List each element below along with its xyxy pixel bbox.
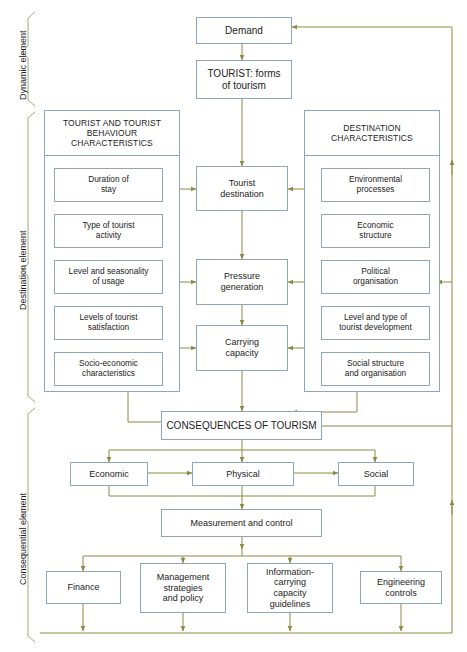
box-economic-structure[interactable]: Economicstructure <box>321 214 430 248</box>
box-measurement-and-control-label: Measurement and control <box>187 518 295 529</box>
panel-right-title-text: DESTINATIONCHARACTERISTICS <box>331 123 413 143</box>
box-level-and-type-of-tourist-development[interactable]: Level and type oftourist development <box>321 306 430 340</box>
side-label-dynamic-element: Dynamic element <box>18 30 28 100</box>
box-levels-of-tourist-satisfaction-label: Levels of touristsatisfaction <box>76 313 140 333</box>
box-management-strategies-and-policy-label: Managementstrategiesand policy <box>154 572 213 604</box>
side-label-destination-element: Destination element <box>18 230 28 310</box>
box-carrying-capacity-label: Carryingcapacity <box>222 337 262 358</box>
box-pressure-generation-label: Pressuregeneration <box>218 271 267 292</box>
box-environmental-processes[interactable]: Environmentalprocesses <box>321 168 430 202</box>
box-physical[interactable]: Physical <box>192 462 294 486</box>
box-demand[interactable]: Demand <box>196 17 292 44</box>
box-economic-structure-label: Economicstructure <box>354 221 396 241</box>
box-social[interactable]: Social <box>338 462 414 486</box>
box-economic[interactable]: Economic <box>70 462 148 486</box>
box-tourist-forms-of-tourism-label: TOURIST: formsof tourism <box>204 68 283 92</box>
box-finance[interactable]: Finance <box>46 571 121 604</box>
box-engineering-controls-label: Engineeringcontrols <box>374 577 428 598</box>
box-political-organisation-label: Politicalorganisation <box>350 267 401 287</box>
box-social-label: Social <box>361 469 392 480</box>
box-tourist-destination-label: Touristdestination <box>217 178 267 199</box>
panel-destination-characteristics-title: DESTINATIONCHARACTERISTICS <box>304 110 440 156</box>
box-physical-label: Physical <box>223 469 263 480</box>
box-tourist-destination[interactable]: Touristdestination <box>196 166 288 211</box>
box-duration-of-stay-label: Duration ofstay <box>85 175 132 195</box>
box-demand-label: Demand <box>222 25 266 37</box>
side-label-consequential-element: Consequential element <box>18 493 28 585</box>
box-social-structure-and-organisation[interactable]: Social structureand organisation <box>321 352 430 386</box>
box-information-carrying-capacity-guidelines[interactable]: Information-carryingcapacityguidelines <box>247 563 333 613</box>
box-type-of-tourist-activity-label: Type of touristactivity <box>79 221 137 241</box>
box-pressure-generation[interactable]: Pressuregeneration <box>196 259 288 305</box>
box-information-carrying-capacity-guidelines-label: Information-carryingcapacityguidelines <box>263 567 317 609</box>
box-type-of-tourist-activity[interactable]: Type of touristactivity <box>54 214 163 248</box>
box-environmental-processes-label: Environmentalprocesses <box>346 175 405 195</box>
box-carrying-capacity[interactable]: Carryingcapacity <box>196 325 288 371</box>
box-duration-of-stay[interactable]: Duration ofstay <box>54 168 163 202</box>
box-level-and-seasonality-of-usage[interactable]: Level and seasonalityof usage <box>54 260 163 294</box>
panel-tourist-behaviour-characteristics-title: TOURIST AND TOURISTBEHAVIOURCHARACTERIST… <box>44 110 180 156</box>
box-level-and-seasonality-of-usage-label: Level and seasonalityof usage <box>66 267 152 287</box>
box-levels-of-tourist-satisfaction[interactable]: Levels of touristsatisfaction <box>54 306 163 340</box>
box-measurement-and-control[interactable]: Measurement and control <box>161 509 322 537</box>
box-consequences-of-tourism-label: CONSEQUENCES OF TOURISM <box>163 420 319 432</box>
box-social-structure-and-organisation-label: Social structureand organisation <box>342 359 409 379</box>
box-political-organisation[interactable]: Politicalorganisation <box>321 260 430 294</box>
box-engineering-controls[interactable]: Engineeringcontrols <box>360 571 442 604</box>
box-management-strategies-and-policy[interactable]: Managementstrategiesand policy <box>140 563 226 613</box>
box-level-and-type-of-tourist-development-label: Level and type oftourist development <box>336 313 414 333</box>
box-socio-economic-characteristics-label: Socio-economiccharacteristics <box>76 359 141 379</box>
box-finance-label: Finance <box>64 582 102 593</box>
box-economic-label: Economic <box>86 469 132 480</box>
box-tourist-forms-of-tourism[interactable]: TOURIST: formsof tourism <box>196 60 292 99</box>
flowchart-canvas: Dynamic element Destination element Cons… <box>0 0 467 652</box>
box-consequences-of-tourism[interactable]: CONSEQUENCES OF TOURISM <box>161 411 322 440</box>
box-socio-economic-characteristics[interactable]: Socio-economiccharacteristics <box>54 352 163 386</box>
panel-left-title-text: TOURIST AND TOURISTBEHAVIOURCHARACTERIST… <box>63 118 161 149</box>
